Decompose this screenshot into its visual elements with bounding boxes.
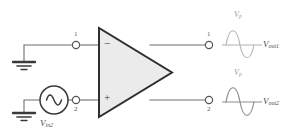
input-terminal-2-node (72, 96, 79, 103)
input-terminal-nodes (72, 41, 79, 103)
opamp-plus-label: + (104, 92, 110, 103)
input-terminal-1-number: 1 (74, 31, 78, 38)
waveform-out1-peak-sub: p (239, 13, 242, 19)
wire-ground-top-to-input1 (24, 45, 72, 62)
waveform-out1-peak-label: Vp (234, 11, 242, 20)
input-terminal-1-node (72, 41, 79, 48)
source-label-sub: in2 (46, 122, 54, 128)
output-terminal-2-node (205, 96, 212, 103)
opamp-minus-label: − (104, 38, 110, 49)
ground-bottom-icon (13, 113, 35, 121)
waveform-out1 (222, 31, 262, 58)
waveform-out2 (222, 88, 262, 116)
input-terminal-2-number: 2 (74, 106, 78, 113)
source-label: Vin2 (40, 119, 53, 129)
waveform-out2-signal-sub: out2 (269, 100, 280, 106)
output-terminal-nodes (205, 41, 212, 103)
output-terminal-1-number: 1 (207, 31, 211, 38)
waveform-out1-signal-sub: out1 (269, 43, 280, 49)
ac-sine-source-icon (40, 86, 68, 114)
output-terminal-1-node (205, 41, 212, 48)
waveform-out2-signal-label: Vout2 (263, 97, 279, 107)
waveform-out2-peak-label: Vp (234, 69, 242, 78)
waveform-out1-signal-label: Vout1 (263, 40, 279, 50)
ground-top-icon (13, 62, 35, 70)
circuit-diagram: − + 1 2 1 2 Vin2 Vp Vout1 Vp Vout2 (0, 0, 294, 138)
waveform-out2-peak-sub: p (239, 71, 242, 77)
wire-ground-bottom-to-source (24, 100, 40, 113)
output-terminal-2-number: 2 (207, 106, 211, 113)
